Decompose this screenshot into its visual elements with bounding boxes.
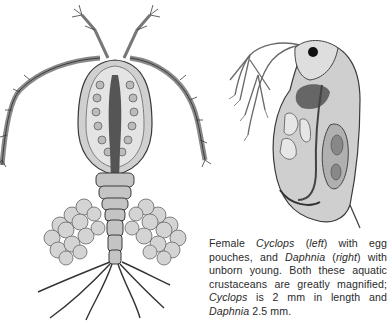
- caption-segment: Female: [209, 237, 256, 249]
- caption-segment: is 2 mm in length and: [247, 291, 387, 303]
- caption-segment: (: [294, 237, 309, 249]
- cyclops-illustration: [0, 0, 230, 332]
- caption-segment: right: [336, 251, 357, 263]
- caption-segment: Daphnia: [209, 305, 249, 317]
- caption-segment: left: [309, 237, 324, 249]
- caption-segment: Cyclops: [256, 237, 294, 249]
- figure-caption: Female Cyclops (left) with egg pouches, …: [209, 237, 387, 319]
- caption-segment: (: [325, 251, 336, 263]
- caption-segment: 2.5 mm.: [249, 305, 291, 317]
- daphnia-illustration: [220, 20, 389, 230]
- caption-segment: Daphnia: [285, 251, 325, 263]
- caption-segment: Cyclops: [209, 291, 247, 303]
